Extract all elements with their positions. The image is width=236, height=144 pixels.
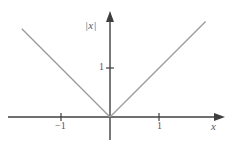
x-axis-label: x — [211, 121, 216, 132]
x-tick-label-negative-one: −1 — [55, 121, 66, 131]
y-axis-label: |x| — [85, 20, 97, 31]
y-axis-arrow-icon — [106, 11, 114, 22]
abs-curve-right-branch — [110, 22, 206, 118]
abs-curve-left-branch — [22, 29, 110, 117]
y-tick-label-one: 1 — [99, 62, 104, 72]
x-tick-label-positive-one: 1 — [157, 121, 162, 131]
plot-figure: |x| x −1 1 1 — [0, 0, 236, 144]
plot-canvas — [0, 0, 236, 144]
